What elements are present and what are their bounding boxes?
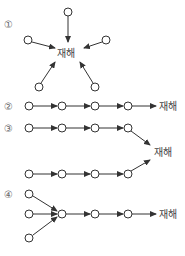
node xyxy=(24,36,32,44)
node xyxy=(35,83,43,91)
panel-2: ② 재해 xyxy=(4,100,177,112)
panel-3-label: 재해 xyxy=(154,146,172,158)
node xyxy=(91,83,99,91)
panel-4-label: 재해 xyxy=(159,208,177,220)
accident-type-diagram: ① 재해 ② 재해 ③ xyxy=(0,0,185,256)
panel-1-marker: ① xyxy=(4,19,13,30)
node xyxy=(64,8,72,16)
panel-3: ③ 재해 xyxy=(4,123,172,178)
panel-4-marker: ④ xyxy=(4,189,13,200)
node xyxy=(102,36,110,44)
panel-2-label: 재해 xyxy=(159,100,177,112)
panel-3-marker: ③ xyxy=(4,123,13,134)
panel-4: ④ 재해 xyxy=(4,189,177,242)
panel-1-label: 재해 xyxy=(57,47,75,59)
panel-1: ① 재해 xyxy=(4,8,110,91)
panel-2-marker: ② xyxy=(4,101,13,112)
